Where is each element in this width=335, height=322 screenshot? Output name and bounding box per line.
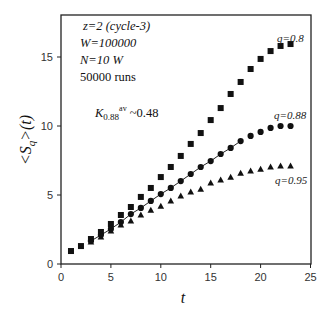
data-point-circle bbox=[208, 158, 214, 164]
annotation-w: W=100000 bbox=[80, 36, 137, 50]
data-point-square bbox=[128, 204, 134, 210]
data-point-square bbox=[178, 153, 184, 159]
x-tick-label: 10 bbox=[155, 271, 167, 283]
x-tick-label: 5 bbox=[108, 271, 114, 283]
svg-text:<Sq>(t): <Sq>(t) bbox=[17, 115, 37, 165]
data-point-triangle bbox=[207, 180, 214, 186]
data-point-triangle bbox=[227, 174, 234, 180]
data-point-circle bbox=[248, 133, 254, 139]
x-axis-label: t bbox=[181, 289, 186, 306]
data-point-triangle bbox=[167, 198, 174, 204]
data-point-circle bbox=[188, 171, 194, 177]
data-point-triangle bbox=[217, 177, 224, 183]
data-point-square bbox=[198, 130, 204, 136]
x-tick-label: 25 bbox=[304, 271, 316, 283]
data-point-triangle bbox=[158, 203, 165, 209]
data-point-circle bbox=[158, 191, 164, 197]
data-point-triangle bbox=[187, 189, 194, 195]
y-tick-label: 5 bbox=[47, 189, 53, 201]
data-point-circle bbox=[198, 164, 204, 170]
data-point-circle bbox=[277, 123, 283, 129]
data-point-square bbox=[168, 164, 174, 170]
data-point-triangle bbox=[128, 218, 135, 224]
data-point-square bbox=[78, 243, 84, 249]
x-tick-label: 15 bbox=[205, 271, 217, 283]
data-point-square bbox=[238, 79, 244, 85]
data-point-circle bbox=[168, 185, 174, 191]
data-point-triangle bbox=[257, 166, 264, 172]
annotation-n: N=10 W bbox=[79, 53, 124, 67]
series-label-q08: q=0.8 bbox=[277, 32, 304, 44]
data-point-circle bbox=[228, 145, 234, 151]
data-point-circle bbox=[218, 151, 224, 157]
data-point-square bbox=[68, 248, 74, 254]
x-tick-label: 0 bbox=[58, 271, 64, 283]
x-tick-label: 20 bbox=[254, 271, 266, 283]
annotation-z: z=2 (cycle-3) bbox=[82, 19, 150, 33]
data-point-triangle bbox=[247, 168, 254, 174]
chart: 0510152025051015 z=2 (cycle-3) W=100000 … bbox=[0, 0, 335, 322]
y-tick-label: 0 bbox=[47, 258, 53, 270]
data-point-square bbox=[258, 56, 264, 62]
series-label-q088: q=0.88 bbox=[274, 109, 307, 121]
data-point-circle bbox=[138, 205, 144, 211]
data-point-circle bbox=[258, 129, 264, 135]
data-point-square bbox=[158, 174, 164, 180]
data-point-triangle bbox=[138, 212, 145, 218]
data-point-circle bbox=[238, 138, 244, 144]
data-point-circle bbox=[178, 178, 184, 184]
data-point-triangle bbox=[148, 207, 155, 213]
data-point-square bbox=[138, 194, 144, 200]
data-point-circle bbox=[287, 123, 293, 129]
data-point-triangle bbox=[177, 193, 184, 199]
data-point-triangle bbox=[237, 170, 244, 176]
data-point-square bbox=[268, 48, 274, 54]
data-point-square bbox=[208, 117, 214, 123]
data-point-triangle bbox=[277, 163, 284, 169]
data-point-triangle bbox=[267, 164, 274, 170]
data-point-square bbox=[188, 141, 194, 147]
data-point-circle bbox=[128, 211, 134, 217]
data-point-circle bbox=[148, 198, 154, 204]
data-point-square bbox=[228, 91, 234, 97]
data-point-circle bbox=[267, 125, 273, 131]
exponent-annotation: K0.88av ~0.48 bbox=[94, 104, 158, 122]
annotation-runs: 50000 runs bbox=[80, 70, 136, 84]
y-axis-label: <Sq>(t) bbox=[17, 115, 37, 165]
data-point-triangle bbox=[197, 186, 204, 192]
data-point-triangle bbox=[287, 163, 294, 169]
data-point-square bbox=[118, 212, 124, 218]
data-point-square bbox=[218, 105, 224, 111]
y-tick-label: 15 bbox=[41, 51, 53, 63]
data-point-square bbox=[248, 66, 254, 72]
y-tick-label: 10 bbox=[41, 120, 53, 132]
data-point-square bbox=[148, 185, 154, 191]
series-label-q095: q=0.95 bbox=[275, 174, 308, 186]
